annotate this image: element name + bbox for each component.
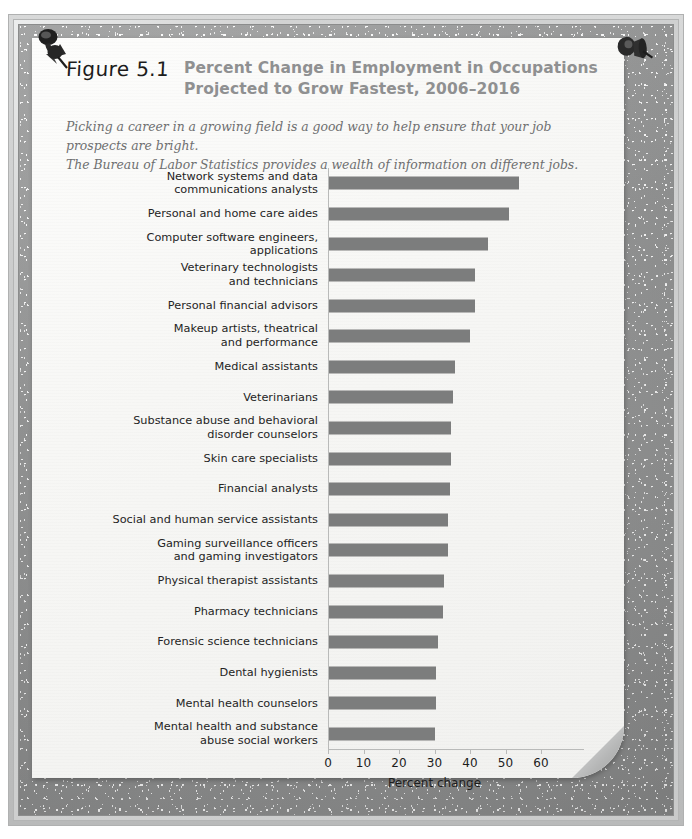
- bar-category-label: Makeup artists, theatrical and performan…: [84, 322, 328, 350]
- bar: [329, 513, 448, 526]
- bar-category-label: Financial analysts: [84, 482, 328, 496]
- bar-category-label: Veterinary technologists and technicians: [84, 261, 328, 289]
- figure-title-row: Figure 5.1 Percent Change in Employment …: [66, 58, 606, 100]
- pushpin-top-left: [30, 24, 78, 72]
- bar-row: Mental health counselors: [84, 688, 584, 719]
- bar-lane: [328, 260, 584, 291]
- bar-lane: [328, 627, 584, 658]
- bar-lane: [328, 505, 584, 536]
- bar-category-label: Mental health counselors: [84, 697, 328, 711]
- bar-lane: [328, 290, 584, 321]
- bar: [329, 422, 451, 435]
- x-axis-tick-label: 30: [427, 756, 442, 770]
- bar-category-label: Dental hygienists: [84, 666, 328, 680]
- figure-caption-line-1: Picking a career in a growing field is a…: [66, 117, 594, 155]
- figure-page: Figure 5.1 Percent Change in Employment …: [0, 0, 692, 839]
- bar: [329, 360, 455, 373]
- bar: [329, 452, 451, 465]
- bar-row: Makeup artists, theatrical and performan…: [84, 321, 584, 352]
- bar-category-label: Substance abuse and behavioral disorder …: [84, 414, 328, 442]
- bar-lane: [328, 719, 584, 750]
- bar-row: Veterinarians: [84, 382, 584, 413]
- x-axis: 0102030405060Percent change: [328, 749, 584, 789]
- bar-row: Financial analysts: [84, 474, 584, 505]
- x-axis-tick: [435, 750, 436, 754]
- x-axis-tick-label: 50: [498, 756, 513, 770]
- bar-row: Medical assistants: [84, 352, 584, 383]
- bar: [329, 636, 438, 649]
- x-axis-title: Percent change: [388, 776, 481, 790]
- bar-lane: [328, 199, 584, 230]
- paper-sheet: Figure 5.1 Percent Change in Employment …: [32, 38, 624, 778]
- bar-lane: [328, 658, 584, 689]
- bar-category-label: Forensic science technicians: [84, 635, 328, 649]
- bar: [329, 697, 436, 710]
- bar: [329, 575, 444, 588]
- bar-category-label: Social and human service assistants: [84, 513, 328, 527]
- figure-header: Figure 5.1 Percent Change in Employment …: [66, 58, 606, 175]
- bar-lane: [328, 596, 584, 627]
- bar-category-label: Physical therapist assistants: [84, 574, 328, 588]
- plot-area: Network systems and data communications …: [84, 168, 584, 789]
- x-axis-tick: [541, 750, 542, 754]
- bar-lane: [328, 168, 584, 199]
- bar-category-label: Skin care specialists: [84, 452, 328, 466]
- bar-lane: [328, 382, 584, 413]
- x-axis-tick-label: 60: [533, 756, 548, 770]
- bar-lane: [328, 474, 584, 505]
- pushpin-icon: [30, 24, 78, 72]
- bar-row: Physical therapist assistants: [84, 566, 584, 597]
- x-axis-tick: [506, 750, 507, 754]
- bar: [329, 544, 448, 557]
- bar-row: Veterinary technologists and technicians: [84, 260, 584, 291]
- bar-lane: [328, 229, 584, 260]
- bar-category-label: Personal financial advisors: [84, 299, 328, 313]
- bar-category-label: Veterinarians: [84, 391, 328, 405]
- figure-caption: Picking a career in a growing field is a…: [66, 117, 594, 175]
- bar-category-label: Computer software engineers, application…: [84, 231, 328, 259]
- bar-rows: Network systems and data communications …: [84, 168, 584, 749]
- bar-lane: [328, 321, 584, 352]
- bar-lane: [328, 535, 584, 566]
- bar-lane: [328, 413, 584, 444]
- bar-category-label: Pharmacy technicians: [84, 605, 328, 619]
- bar-lane: [328, 566, 584, 597]
- bar: [329, 238, 488, 251]
- bar: [329, 605, 443, 618]
- bar: [329, 299, 475, 312]
- bar-row: Mental health and substance abuse social…: [84, 719, 584, 750]
- bar-row: Personal financial advisors: [84, 290, 584, 321]
- bar: [329, 391, 453, 404]
- bar-lane: [328, 688, 584, 719]
- bar-category-label: Personal and home care aides: [84, 207, 328, 221]
- bar-category-label: Network systems and data communications …: [84, 170, 328, 198]
- figure-title: Percent Change in Employment in Occupati…: [184, 58, 598, 100]
- bar-row: Dental hygienists: [84, 658, 584, 689]
- figure-title-line-1: Percent Change in Employment in Occupati…: [184, 58, 598, 79]
- bar: [329, 666, 436, 679]
- x-axis-tick: [328, 750, 329, 754]
- x-axis-tick-label: 0: [324, 756, 332, 770]
- bar: [329, 207, 509, 220]
- x-axis-tick-label: 20: [391, 756, 406, 770]
- x-axis-tick-label: 10: [356, 756, 371, 770]
- bar-row: Social and human service assistants: [84, 505, 584, 536]
- bar: [329, 483, 450, 496]
- x-axis-tick: [399, 750, 400, 754]
- figure-title-line-2: Projected to Grow Fastest, 2006–2016: [184, 79, 598, 100]
- bar-category-label: Mental health and substance abuse social…: [84, 720, 328, 748]
- bar-row: Gaming surveillance officers and gaming …: [84, 535, 584, 566]
- figure-number: Figure 5.1: [65, 58, 184, 81]
- pushpin-icon: [606, 26, 657, 77]
- x-axis-tick: [364, 750, 365, 754]
- pushpin-top-right: [606, 26, 657, 77]
- bar-category-label: Gaming surveillance officers and gaming …: [84, 537, 328, 565]
- bar: [329, 727, 435, 740]
- bar-row: Substance abuse and behavioral disorder …: [84, 413, 584, 444]
- bar-lane: [328, 443, 584, 474]
- bar-row: Skin care specialists: [84, 443, 584, 474]
- bar: [329, 177, 519, 190]
- bar-row: Computer software engineers, application…: [84, 229, 584, 260]
- bar-lane: [328, 352, 584, 383]
- x-axis-tick-label: 40: [462, 756, 477, 770]
